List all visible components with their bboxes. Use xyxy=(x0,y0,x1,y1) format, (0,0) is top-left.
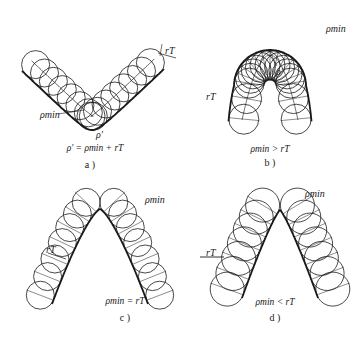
condition-lhs: ρmin xyxy=(106,296,125,306)
panel-tag-a: a ) xyxy=(75,160,105,170)
rho-prime-text: ρ' xyxy=(96,129,103,140)
condition-rhs: rT xyxy=(136,296,145,306)
condition-a: ρ' = ρmin + rT xyxy=(40,144,150,154)
label-rho-min-c: ρmin xyxy=(145,195,165,205)
condition-lhs: ρmin xyxy=(251,144,270,154)
condition-d: ρmin < rT xyxy=(240,298,310,308)
label-rho-min-d: ρmin xyxy=(305,189,325,199)
rho-min-text: ρmin xyxy=(305,188,325,199)
r-t-text: rT xyxy=(206,91,215,102)
condition-rhs: ρmin + rT xyxy=(84,143,123,153)
rho-min-text: ρmin xyxy=(145,194,165,205)
rho-min-text: ρmin xyxy=(40,109,60,120)
panel-d: ρmin rT ρmin < rT d ) xyxy=(180,175,360,350)
label-rt-d: rT xyxy=(206,248,215,258)
condition-lhs: ρmin xyxy=(256,297,275,307)
label-rho-min-a: ρmin xyxy=(40,110,60,120)
label-rho-min-b: ρmin xyxy=(326,24,346,34)
condition-op: > xyxy=(269,144,280,154)
panel-tag-b: b ) xyxy=(255,158,285,168)
condition-op: = xyxy=(124,296,135,306)
label-rt-a: rT xyxy=(165,46,174,56)
panel-c: ρmin rT ρmin = rT c ) xyxy=(0,175,180,350)
r-t-text: rT xyxy=(46,244,55,255)
label-rt-c: rT xyxy=(46,245,55,255)
rho-min-text: ρmin xyxy=(326,23,346,34)
label-rho-prime-a: ρ' xyxy=(96,130,103,140)
condition-op: = xyxy=(73,143,84,153)
diagram-d-offset-curve xyxy=(180,175,360,350)
condition-c: ρmin = rT xyxy=(90,297,160,307)
rho-prime-text: ρ' xyxy=(276,66,283,77)
panel-tag-c: c ) xyxy=(110,313,140,323)
panel-a: ρmin ρ' rT ρ' = ρmin + rT a ) xyxy=(0,0,180,175)
label-rt-b: rT xyxy=(206,92,215,102)
label-rho-prime-b: ρ' xyxy=(276,67,283,77)
r-t-text: rT xyxy=(206,247,215,258)
condition-rhs: rT xyxy=(281,144,290,154)
panel-b: ρmin ρ' rT ρmin > rT b ) xyxy=(180,0,360,175)
r-t-text: rT xyxy=(165,45,174,56)
panel-tag-d: d ) xyxy=(260,313,290,323)
condition-rhs: rT xyxy=(286,297,295,307)
condition-op: < xyxy=(274,297,285,307)
condition-b: ρmin > rT xyxy=(230,145,310,155)
